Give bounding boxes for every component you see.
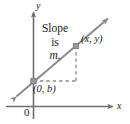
point-label-0b: (0, b) (33, 84, 56, 95)
slope-annotation: Slope is m. (33, 22, 77, 63)
y-axis-label: y (36, 1, 40, 11)
x-axis-label: x (117, 101, 121, 111)
slope-annotation-line-2: is (33, 36, 77, 50)
slope-annotation-line-3: m. (33, 49, 77, 63)
origin-label: 0 (24, 107, 30, 118)
slope-intercept-figure: y x 0 Slope is m. (x, y) (0, b) (0, 0, 130, 124)
point-label-xy: (x, y) (81, 34, 103, 45)
slope-annotation-line-1: Slope (33, 22, 77, 36)
